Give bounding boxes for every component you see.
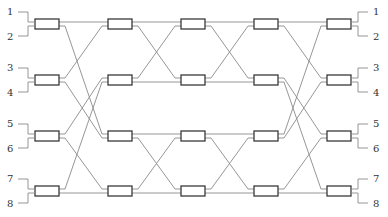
- switch-box: [35, 131, 59, 141]
- input-label: 5: [7, 118, 13, 129]
- output-label: 8: [373, 198, 379, 209]
- switch-box: [35, 19, 59, 29]
- port-bracket: [351, 26, 368, 36]
- switch-box: [254, 131, 278, 141]
- switch-box: [181, 19, 205, 29]
- input-label: 7: [7, 173, 13, 184]
- stage-wire: [132, 138, 181, 189]
- output-label: 4: [373, 87, 379, 98]
- output-label: 7: [373, 173, 379, 184]
- port-bracket: [18, 12, 35, 22]
- port-bracket: [351, 138, 368, 148]
- switch-box: [327, 19, 351, 29]
- input-label: 2: [7, 31, 13, 42]
- input-label: 8: [7, 198, 13, 209]
- switch-box: [254, 75, 278, 85]
- switch-box: [181, 186, 205, 196]
- switch-box: [108, 131, 132, 141]
- switch-box: [327, 75, 351, 85]
- stage-wire: [278, 26, 327, 78]
- port-bracket: [351, 82, 368, 92]
- stage-wire: [132, 26, 181, 78]
- switch-box: [35, 186, 59, 196]
- port-bracket: [18, 82, 35, 92]
- input-label: 1: [7, 6, 13, 17]
- input-label: 3: [7, 62, 13, 73]
- port-bracket: [18, 124, 35, 134]
- switch-box: [181, 131, 205, 141]
- switch-box: [327, 186, 351, 196]
- network-wires: [59, 22, 327, 193]
- switch-box: [35, 75, 59, 85]
- port-bracket: [351, 179, 368, 189]
- output-label: 5: [373, 118, 379, 129]
- port-labels: 1212343456567878: [7, 6, 379, 209]
- stage-wire: [205, 26, 254, 78]
- port-bracket: [18, 193, 35, 203]
- port-bracket: [18, 68, 35, 78]
- switch-box: [108, 186, 132, 196]
- port-bracket: [18, 26, 35, 36]
- switch-box: [254, 19, 278, 29]
- stage-wire: [59, 26, 108, 78]
- output-label: 2: [373, 31, 379, 42]
- stage-wire: [59, 138, 108, 189]
- switch-box: [254, 186, 278, 196]
- port-bracket: [18, 179, 35, 189]
- input-label: 6: [7, 143, 13, 154]
- output-label: 1: [373, 6, 379, 17]
- port-bracket: [351, 193, 368, 203]
- port-bracket: [351, 124, 368, 134]
- switching-network-diagram: 1212343456567878: [0, 0, 388, 217]
- input-label: 4: [7, 87, 13, 98]
- stage-wire: [278, 138, 327, 189]
- output-label: 6: [373, 143, 379, 154]
- switch-box: [181, 75, 205, 85]
- switch-box: [108, 19, 132, 29]
- output-label: 3: [373, 62, 379, 73]
- switch-box: [108, 75, 132, 85]
- port-bracket: [18, 138, 35, 148]
- stage-wire: [205, 138, 254, 189]
- switch-box: [327, 131, 351, 141]
- port-bracket: [351, 68, 368, 78]
- port-bracket: [351, 12, 368, 22]
